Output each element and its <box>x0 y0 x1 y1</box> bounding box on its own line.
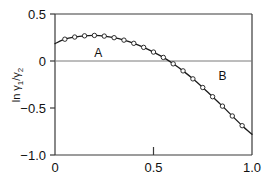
y-tick-label-1: 0 <box>39 54 46 69</box>
x-tick-label-1: 0.5 <box>144 160 162 175</box>
chart-figure: 0.5 0 −0.5 −1.0 0 0.5 1.0 ln γ1/γ2 A B <box>0 0 271 185</box>
data-point <box>220 104 224 108</box>
data-point <box>63 37 67 41</box>
data-point <box>112 35 116 39</box>
data-point <box>141 45 145 49</box>
y-tick-label-0: 0.5 <box>28 7 46 22</box>
data-point <box>181 69 185 73</box>
y-tick-label-3: −1.0 <box>20 148 46 163</box>
data-point <box>240 123 244 127</box>
region-label-a: A <box>94 46 102 60</box>
region-label-b: B <box>218 69 226 83</box>
data-point <box>92 33 96 37</box>
data-point <box>151 50 155 54</box>
data-point <box>230 114 234 118</box>
data-point <box>132 41 136 45</box>
data-point <box>191 77 195 81</box>
y-axis-title-sub2: 2 <box>16 67 25 72</box>
data-point <box>201 85 205 89</box>
plot-svg: 0.5 0 −0.5 −1.0 0 0.5 1.0 ln γ1/γ2 A B <box>0 0 271 185</box>
data-point <box>73 35 77 39</box>
data-point <box>82 34 86 38</box>
data-point <box>171 62 175 66</box>
data-point <box>102 34 106 38</box>
data-point <box>161 55 165 59</box>
x-tick-label-2: 1.0 <box>243 160 261 175</box>
data-point <box>210 95 214 99</box>
data-point <box>122 38 126 42</box>
y-axis-title-prefix: ln <box>10 91 22 103</box>
x-tick-label-0: 0 <box>51 160 58 175</box>
y-tick-label-2: −0.5 <box>20 101 46 116</box>
